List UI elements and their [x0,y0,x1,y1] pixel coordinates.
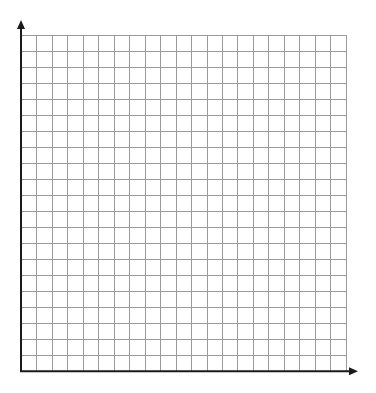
y-axis-arrow-icon [17,20,25,29]
grid-lines [21,35,347,371]
x-axis-arrow-icon [349,367,358,375]
coordinate-grid [0,0,376,393]
